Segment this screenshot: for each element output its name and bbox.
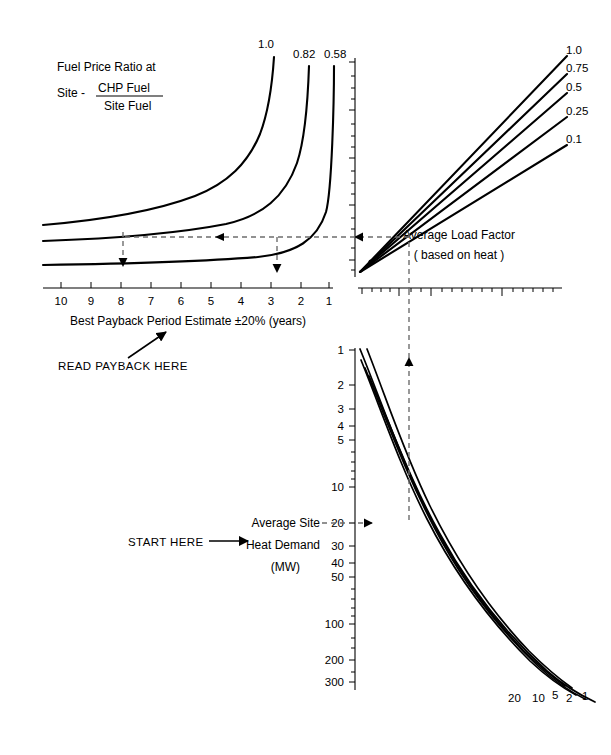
heat-demand-curve-5 [361,360,576,695]
payback-tick-10: 10 [55,295,68,307]
payback-tick-2: 2 [298,295,304,307]
load-factor-caption-line2: ( based on heat ) [414,248,505,262]
annotation-start-here: START HERE [128,536,204,548]
nomogram-page: Fuel Price Ratio at Site - CHP Fuel Site… [0,0,611,755]
fuel-ratio-label-1-0: 1.0 [258,38,274,50]
load-factor-origin-dot [368,259,373,264]
heat-demand-label-10: 10 [532,692,545,704]
fuel-price-caption-line1: Fuel Price Ratio at [57,60,156,74]
heat-demand-caption-line2: Heat Demand [246,538,320,552]
panel-fuel-price-ratio: Fuel Price Ratio at Site - CHP Fuel Site… [43,38,346,328]
heat-demand-label-1: 1 [582,690,588,702]
fuel-price-caption-denominator: Site Fuel [104,99,151,113]
heat-demand-tick-100: 100 [325,618,344,630]
heat-demand-tick-10: 10 [331,481,344,493]
fuel-ratio-curve-1-0 [43,57,274,225]
heat-demand-tick-5: 5 [338,434,344,446]
guide-left-arrowhead-mid [215,233,224,241]
heat-demand-tick-40: 40 [331,557,344,569]
annotation-read-payback: READ PAYBACK HERE [58,360,188,372]
load-factor-label-0-1: 0.1 [566,133,582,145]
load-factor-vertical-ticks [349,62,355,270]
load-factor-label-1-0: 1.0 [566,44,582,56]
nomogram-figure: Fuel Price Ratio at Site - CHP Fuel Site… [0,0,611,755]
heat-demand-curve-1 [369,376,595,702]
heat-demand-tick-300: 300 [325,676,344,688]
heat-demand-caption-line1: Average Site [252,516,321,530]
load-factor-label-0-25: 0.25 [566,105,588,117]
fuel-ratio-label-0-58: 0.58 [324,48,346,60]
fuel-ratio-label-0-82: 0.82 [293,48,315,60]
heat-demand-curve-10 [367,349,572,688]
fuel-ratio-curve-0-58 [43,66,334,265]
payback-tick-3: 3 [268,295,274,307]
heat-demand-tick-2: 2 [338,379,344,391]
heat-demand-label-20: 20 [508,692,521,704]
heat-demand-tick-1: 1 [338,344,344,356]
load-factor-line-0-75 [360,74,567,272]
heat-demand-curve-2 [365,368,585,699]
heat-demand-tick-200: 200 [325,654,344,666]
heat-demand-tick-4: 4 [338,420,345,432]
worked-example-guide [123,232,409,523]
payback-tick-4: 4 [238,295,245,307]
load-factor-caption-line1: Average Load Factor [403,228,515,242]
panel-average-load-factor: 1.0 0.75 0.5 0.25 0.1 Average Load Facto… [349,44,588,296]
payback-axis-ticks [61,282,329,288]
fuel-price-caption-numerator: CHP Fuel [98,81,150,95]
heat-demand-tick-3: 3 [338,403,344,415]
panel-heat-demand: 1 2 3 4 5 10 20 30 40 50 100 200 300 Ave… [246,344,595,704]
heat-demand-minor-ticks [351,452,355,672]
payback-tick-5: 5 [208,295,214,307]
load-factor-line-0-5 [360,93,567,272]
heat-demand-curve-20 [360,349,565,686]
load-factor-label-0-5: 0.5 [566,81,582,93]
heat-demand-label-2: 2 [566,692,572,704]
fuel-price-caption-prefix: Site - [57,86,85,100]
heat-demand-major-ticks [349,350,355,682]
annotations: READ PAYBACK HERE START HERE [58,332,248,548]
heat-demand-tick-50: 50 [331,571,344,583]
payback-tick-1: 1 [326,295,332,307]
payback-axis-label: Best Payback Period Estimate ±20% (years… [70,314,306,328]
payback-tick-6: 6 [178,295,184,307]
payback-tick-9: 9 [88,295,94,307]
payback-tick-7: 7 [148,295,154,307]
load-factor-label-0-75: 0.75 [566,62,588,74]
heat-demand-tick-30: 30 [331,540,344,552]
payback-tick-8: 8 [118,295,124,307]
heat-demand-label-5: 5 [552,689,558,701]
load-factor-horizontal-ticks [362,288,553,296]
heat-demand-caption-line3: (MW) [271,560,300,574]
annotation-read-payback-arrow [128,332,166,358]
